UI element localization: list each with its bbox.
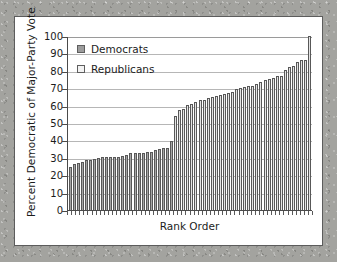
- x-tick-mark: [108, 211, 109, 215]
- bar: [113, 157, 116, 210]
- y-tick-mark: [62, 211, 67, 212]
- y-axis-title: Percent Democratic of Major-Party Vote: [25, 21, 37, 217]
- x-tick-mark: [190, 211, 191, 215]
- bar: [296, 62, 299, 210]
- x-tick-mark: [267, 211, 268, 215]
- bar: [174, 116, 177, 210]
- legend-swatch-democrats-icon: [77, 45, 85, 53]
- bar: [272, 78, 275, 210]
- bar: [223, 94, 226, 210]
- legend-item-democrats: Democrats: [77, 44, 154, 55]
- legend-label-republicans: Republicans: [91, 64, 154, 75]
- bar: [219, 95, 222, 210]
- bar: [166, 148, 169, 210]
- x-tick-mark: [194, 211, 195, 215]
- bar: [154, 150, 157, 210]
- bar: [146, 152, 149, 210]
- x-tick-mark: [96, 211, 97, 215]
- legend-item-republicans: Republicans: [77, 64, 154, 75]
- x-tick-mark: [259, 211, 260, 215]
- x-tick-mark: [312, 211, 313, 215]
- x-tick-mark: [173, 211, 174, 215]
- bar: [190, 104, 193, 210]
- x-tick-mark: [300, 211, 301, 215]
- bar: [158, 149, 161, 210]
- x-tick-mark: [83, 211, 84, 215]
- x-tick-mark: [239, 211, 240, 215]
- x-tick-mark: [283, 211, 284, 215]
- bar: [109, 157, 112, 210]
- x-tick-mark: [120, 211, 121, 215]
- bar: [211, 97, 214, 210]
- x-tick-mark: [234, 211, 235, 215]
- bar: [134, 153, 137, 210]
- chart-panel: Percent Democratic of Major-Party Vote 0…: [14, 16, 323, 246]
- bar: [194, 102, 197, 210]
- x-tick-mark: [161, 211, 162, 215]
- bar: [292, 66, 295, 210]
- x-tick-mark: [87, 211, 88, 215]
- bar: [89, 160, 92, 210]
- bar: [73, 164, 76, 210]
- x-tick-mark: [92, 211, 93, 215]
- bar: [162, 148, 165, 210]
- bar: [117, 157, 120, 210]
- x-tick-mark: [75, 211, 76, 215]
- bar: [101, 157, 104, 210]
- y-tick-mark: [62, 54, 67, 55]
- bar: [280, 76, 283, 210]
- x-tick-mark: [153, 211, 154, 215]
- x-tick-mark: [271, 211, 272, 215]
- bar: [199, 100, 202, 210]
- y-tick-label: 100: [44, 32, 63, 42]
- x-tick-mark: [292, 211, 293, 215]
- bar: [255, 84, 258, 210]
- bar: [239, 88, 242, 210]
- legend-label-democrats: Democrats: [91, 44, 148, 55]
- x-axis-tick-marks: [67, 211, 312, 216]
- x-tick-mark: [251, 211, 252, 215]
- chart-legend: Democrats Republicans: [77, 44, 154, 74]
- x-tick-mark: [296, 211, 297, 215]
- x-tick-mark: [279, 211, 280, 215]
- x-tick-mark: [145, 211, 146, 215]
- bar: [69, 167, 72, 210]
- x-tick-mark: [202, 211, 203, 215]
- bar: [125, 155, 128, 210]
- x-tick-mark: [304, 211, 305, 215]
- bar: [138, 153, 141, 210]
- y-tick-mark: [62, 141, 67, 142]
- bar: [186, 105, 189, 210]
- x-tick-mark: [243, 211, 244, 215]
- y-tick-mark: [62, 176, 67, 177]
- bar: [247, 86, 250, 210]
- y-tick-mark: [62, 107, 67, 108]
- bar: [288, 67, 291, 210]
- x-tick-mark: [222, 211, 223, 215]
- x-tick-mark: [214, 211, 215, 215]
- y-tick-mark: [62, 72, 67, 73]
- x-tick-mark: [116, 211, 117, 215]
- bar: [264, 80, 267, 210]
- y-tick-mark: [62, 159, 67, 160]
- x-tick-mark: [104, 211, 105, 215]
- x-tick-mark: [263, 211, 264, 215]
- bar: [81, 162, 84, 210]
- bar: [150, 152, 153, 210]
- bar: [227, 93, 230, 210]
- x-tick-mark: [136, 211, 137, 215]
- bar: [170, 141, 173, 210]
- bar: [207, 98, 210, 210]
- bar: [300, 60, 303, 210]
- bar: [243, 87, 246, 210]
- x-tick-mark: [247, 211, 248, 215]
- x-tick-mark: [132, 211, 133, 215]
- x-tick-mark: [275, 211, 276, 215]
- bar: [85, 160, 88, 210]
- bar: [268, 79, 271, 210]
- bar: [235, 89, 238, 210]
- bar: [231, 92, 234, 210]
- bar: [93, 159, 96, 210]
- x-tick-mark: [206, 211, 207, 215]
- x-tick-mark: [67, 211, 68, 215]
